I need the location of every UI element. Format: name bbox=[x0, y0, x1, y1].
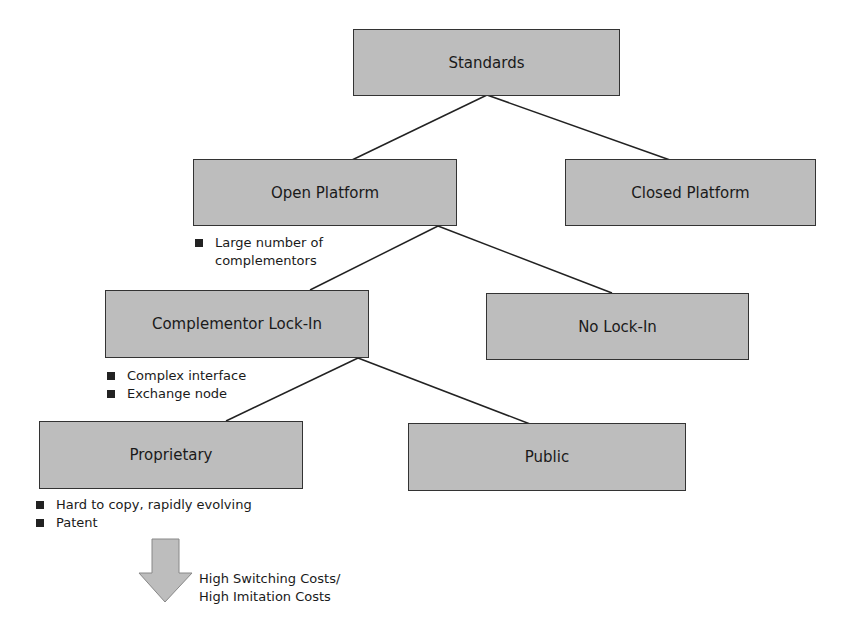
node-proprietary: Proprietary bbox=[39, 421, 303, 489]
note-item: Exchange node bbox=[105, 385, 355, 403]
node-label: Closed Platform bbox=[631, 184, 749, 202]
down-arrow-icon bbox=[139, 539, 192, 602]
note-item: Hard to copy, rapidly evolving bbox=[34, 496, 334, 514]
open-platform-notes: Large number of complementors bbox=[193, 234, 393, 270]
lock-in-notes: Complex interface Exchange node bbox=[105, 367, 355, 403]
note-item: Patent bbox=[34, 514, 334, 532]
note-item: Complex interface bbox=[105, 367, 355, 385]
node-label: Open Platform bbox=[271, 184, 379, 202]
node-label: Complementor Lock-In bbox=[152, 315, 322, 333]
node-label: Public bbox=[525, 448, 569, 466]
node-closed-platform: Closed Platform bbox=[565, 159, 816, 226]
node-no-lock-in: No Lock-In bbox=[486, 293, 749, 360]
outcome-text: High Switching Costs/ High Imitation Cos… bbox=[199, 570, 340, 606]
node-complementor-lock-in: Complementor Lock-In bbox=[105, 290, 369, 358]
node-label: Standards bbox=[448, 54, 524, 72]
node-label: Proprietary bbox=[130, 446, 213, 464]
node-open-platform: Open Platform bbox=[193, 159, 457, 226]
note-item: Large number of complementors bbox=[193, 234, 393, 270]
proprietary-notes: Hard to copy, rapidly evolving Patent bbox=[34, 496, 334, 532]
node-label: No Lock-In bbox=[578, 318, 657, 336]
node-standards: Standards bbox=[353, 29, 620, 96]
node-public: Public bbox=[408, 423, 686, 491]
